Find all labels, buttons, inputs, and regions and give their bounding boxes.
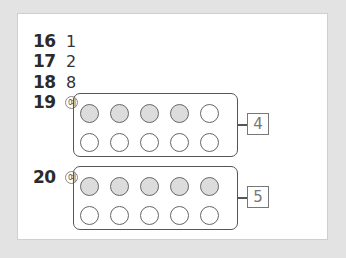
empty-circle-icon bbox=[80, 206, 99, 225]
empty-circle-icon bbox=[200, 104, 219, 123]
filled-circle-icon bbox=[140, 104, 159, 123]
empty-circle-icon bbox=[170, 133, 189, 152]
empty-circle-icon bbox=[80, 133, 99, 152]
filled-circle-icon bbox=[140, 177, 159, 196]
filled-circle-icon bbox=[200, 177, 219, 196]
filled-circle-icon bbox=[80, 177, 99, 196]
problem-number: 16 bbox=[33, 31, 61, 51]
problem-16: 16 1 bbox=[33, 31, 76, 51]
empty-circle-icon bbox=[140, 206, 159, 225]
problem-number: 18 bbox=[33, 72, 61, 92]
problem-number: 17 bbox=[33, 51, 61, 71]
problem-answer: 8 bbox=[66, 73, 76, 92]
problem-19: 19 예 bbox=[33, 92, 78, 112]
empty-circle-icon bbox=[200, 206, 219, 225]
filled-circle-icon bbox=[170, 177, 189, 196]
problem-20: 20 예 bbox=[33, 167, 78, 187]
filled-circle-icon bbox=[170, 104, 189, 123]
empty-circle-icon bbox=[110, 206, 129, 225]
empty-circle-icon bbox=[140, 133, 159, 152]
filled-circle-icon bbox=[110, 177, 129, 196]
answer-box-19: 4 bbox=[247, 113, 269, 135]
ten-frame-20 bbox=[73, 166, 238, 230]
filled-circle-icon bbox=[110, 104, 129, 123]
filled-circle-icon bbox=[80, 104, 99, 123]
empty-circle-icon bbox=[110, 133, 129, 152]
problem-number: 19 bbox=[33, 92, 61, 112]
problem-answer: 1 bbox=[66, 32, 76, 51]
empty-circle-icon bbox=[200, 133, 219, 152]
problem-answer: 2 bbox=[66, 52, 76, 71]
problem-17: 17 2 bbox=[33, 51, 76, 71]
ten-frame-19 bbox=[73, 93, 238, 157]
problem-18: 18 8 bbox=[33, 72, 76, 92]
problem-number: 20 bbox=[33, 167, 61, 187]
empty-circle-icon bbox=[170, 206, 189, 225]
answer-box-20: 5 bbox=[247, 186, 269, 208]
